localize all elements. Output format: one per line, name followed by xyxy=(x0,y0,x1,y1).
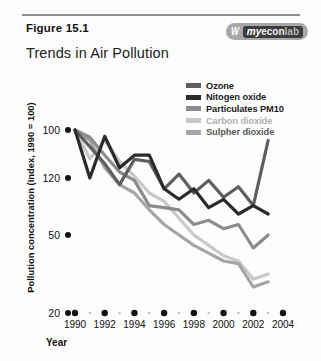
y-tick-label: 120 xyxy=(42,172,60,184)
x-minor-tick-dot xyxy=(148,312,150,314)
x-minor-tick-dot xyxy=(178,312,180,314)
x-tick-label: 2002 xyxy=(242,319,265,330)
x-tick-label: 1994 xyxy=(123,319,146,330)
x-tick-dot xyxy=(102,310,108,316)
x-tick-label: 1996 xyxy=(153,319,176,330)
figure-container: Figure 15.1 Trends in Air Pollution W my… xyxy=(0,0,321,361)
y-tick-dot xyxy=(65,310,71,316)
x-tick-dot xyxy=(161,310,167,316)
line-chart-plot: 1201005020199019921994199619982000200220… xyxy=(0,0,321,361)
x-tick-label: 2000 xyxy=(212,319,235,330)
x-tick-dot xyxy=(250,310,256,316)
y-tick-label: 100 xyxy=(42,124,60,136)
x-minor-tick-dot xyxy=(237,312,239,314)
x-tick-label: 2004 xyxy=(272,319,295,330)
x-tick-dot xyxy=(280,310,286,316)
x-tick-dot xyxy=(191,310,197,316)
x-minor-tick-dot xyxy=(89,312,91,314)
y-tick-label: 50 xyxy=(48,229,60,241)
x-tick-label: 1998 xyxy=(183,319,206,330)
x-minor-tick-dot xyxy=(267,312,269,314)
x-tick-dot xyxy=(131,310,137,316)
y-tick-dot xyxy=(65,127,71,133)
x-minor-tick-dot xyxy=(118,312,120,314)
x-tick-label: 1992 xyxy=(94,319,117,330)
x-tick-label: 1990 xyxy=(64,319,87,330)
x-tick-dot xyxy=(72,310,78,316)
x-tick-dot xyxy=(220,310,226,316)
x-minor-tick-dot xyxy=(208,312,210,314)
series-line xyxy=(75,130,268,214)
y-tick-dot xyxy=(65,175,71,181)
y-tick-dot xyxy=(65,232,71,238)
y-tick-label: 20 xyxy=(48,307,60,319)
